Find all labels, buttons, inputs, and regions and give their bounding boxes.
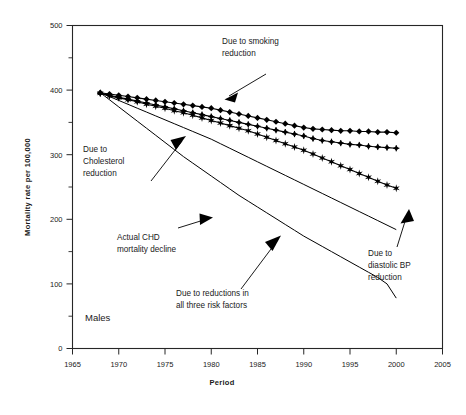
data-point-plus [303,133,304,139]
data-point-diamond [208,105,214,111]
leader-three-factors [241,236,281,290]
series-2 [97,89,400,192]
data-point-star [254,130,261,138]
data-point-plus [331,139,332,145]
data-point-plus [359,142,360,148]
data-point-diamond [328,127,334,133]
x-tick-label: 1970 [110,360,127,369]
data-point-diamond [236,111,242,117]
data-point-diamond [338,128,344,134]
data-point-plus [294,131,295,137]
data-point-diamond [171,100,177,106]
annotation-smoking-line2: reduction [222,49,256,58]
data-point-diamond [273,119,279,125]
data-point-plus [312,135,313,141]
data-point-plus [322,137,323,143]
x-tick-label: 1965 [64,360,81,369]
data-point-plus [340,140,341,146]
leader-cholesterol [151,136,186,181]
annotation-diastolic-bp-line2: diastolic BP [368,261,411,270]
annotation-three-factors-line2: all three risk factors [176,301,247,310]
data-point-star [217,119,224,127]
data-point-diamond [365,128,371,134]
x-axis-tick-labels: 196519701975198019851990199520002005 [64,360,451,369]
y-tick-label: 300 [50,151,63,160]
data-point-diamond [199,104,205,110]
data-point-star [356,169,363,177]
data-point-star [328,158,335,166]
annotation-smoking-line1: Due to smoking [222,37,279,46]
marker-line-series [97,89,400,192]
data-point-plus [266,125,267,131]
data-point-plus [248,121,249,127]
panel-label-males: Males [85,312,111,323]
data-point-diamond [319,126,325,132]
data-point-plus [368,143,369,149]
y-axis-tick-labels: 0100200300400500 [50,21,63,353]
x-tick-label: 1975 [157,360,174,369]
y-tick-label: 400 [50,86,63,95]
x-tick-label: 1990 [295,360,312,369]
data-point-plus [285,129,286,135]
x-axis-ticks [73,349,443,355]
data-point-star [300,146,307,154]
data-point-diamond [180,101,186,107]
data-point-diamond [310,126,316,132]
data-point-star [291,143,298,151]
annotation-three-factors-line1: Due to reductions in [176,289,249,298]
x-tick-label: 1995 [342,360,359,369]
data-point-diamond [347,128,353,134]
data-point-plus [377,144,378,150]
data-point-star [310,150,317,158]
data-point-diamond [291,123,297,129]
x-tick-label: 2000 [388,360,405,369]
data-point-diamond [245,113,251,119]
data-point-plus [257,123,258,129]
annotation-actual-chd-line2: mortality decline [117,245,177,254]
data-point-diamond [356,128,362,134]
data-point-star [263,133,270,141]
data-point-diamond [282,121,288,127]
data-point-diamond [301,124,307,130]
data-point-plus [349,141,350,147]
y-tick-label: 0 [58,344,62,353]
annotation-diastolic-bp-line1: Due to [368,249,393,258]
data-point-star [365,173,372,181]
data-point-star [347,166,354,174]
series-line-1 [100,93,396,148]
annotation-cholesterol-line1: Due to [83,145,108,154]
data-point-diamond [384,129,390,135]
data-point-star [393,184,400,192]
data-point-star [273,136,280,144]
annotation-actual-chd-line1: Actual CHD [117,233,160,242]
y-tick-label: 100 [50,280,63,289]
annotation-cholesterol-line2: Cholesterol [83,157,125,166]
x-tick-label: 2005 [434,360,451,369]
y-axis-ticks [67,26,73,349]
data-point-star [226,122,233,130]
y-axis-title: Mortality rate per 100,000 [23,138,32,236]
y-tick-label: 500 [50,21,63,30]
data-point-diamond [254,115,260,121]
series-1 [97,90,399,151]
data-point-star [282,140,289,148]
y-tick-label: 200 [50,215,63,224]
data-point-star [245,127,252,135]
data-point-star [208,116,215,124]
x-tick-label: 1985 [249,360,266,369]
series-line-2 [100,93,396,188]
chart-canvas: 0100200300400500 19651970197519801985199… [0,0,466,415]
data-point-diamond [190,103,196,109]
chart-figure: 0100200300400500 19651970197519801985199… [0,0,466,415]
leader-actual-chd [178,214,213,229]
x-axis-title: Period [209,378,234,387]
data-point-diamond [393,130,399,136]
data-point-star [374,177,381,185]
data-point-diamond [375,129,381,135]
x-tick-label: 1980 [203,360,220,369]
data-point-diamond [227,109,233,115]
data-point-star [384,181,391,189]
data-point-plus [396,145,397,151]
leader-diastolic-bp [397,209,414,247]
data-point-star [337,162,344,170]
